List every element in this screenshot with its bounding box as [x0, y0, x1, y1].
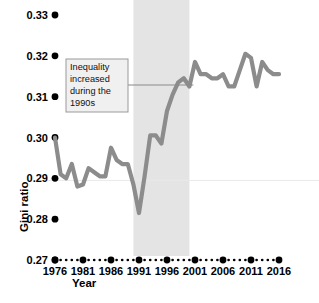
- x-tick-dot-minor: [104, 259, 107, 262]
- x-tick-dot-minor: [182, 259, 185, 262]
- x-tick-label: 2011: [239, 265, 263, 277]
- x-tick-dot-minor: [65, 259, 68, 262]
- x-tick-dot-minor: [126, 259, 129, 262]
- x-tick-dot-minor: [233, 259, 236, 262]
- x-tick-label: 1996: [155, 265, 179, 277]
- shaded-decade-band: [133, 0, 189, 256]
- x-tick-dot-minor: [272, 259, 275, 262]
- x-tick-dot-minor: [115, 259, 118, 262]
- x-tick-dot-major: [136, 257, 143, 264]
- x-tick-dot-minor: [149, 259, 152, 262]
- x-tick-dot-minor: [238, 259, 241, 262]
- y-tick-label: 0.30: [27, 132, 48, 144]
- x-tick-label: 1986: [99, 265, 123, 277]
- x-tick-label: 1981: [71, 265, 95, 277]
- y-tick-dot: [52, 93, 59, 100]
- x-tick-dot-major: [220, 257, 227, 264]
- x-tick-dot-minor: [143, 259, 146, 262]
- x-tick-dot-minor: [188, 259, 191, 262]
- x-tick-dot-major: [192, 257, 199, 264]
- x-tick-dot-minor: [227, 259, 230, 262]
- y-tick-label: 0.32: [27, 50, 48, 62]
- x-tick-dot-major: [80, 257, 87, 264]
- x-axis-title: Year: [72, 277, 97, 289]
- x-tick-label: 2016: [267, 265, 291, 277]
- x-tick-dot-minor: [216, 259, 219, 262]
- x-tick-dot-minor: [244, 259, 247, 262]
- x-tick-dot-minor: [121, 259, 124, 262]
- y-tick-dot: [52, 52, 59, 59]
- x-tick-dot-major: [52, 257, 59, 264]
- x-tick-dot-minor: [199, 259, 202, 262]
- x-tick-dot-minor: [171, 259, 174, 262]
- x-tick-label: 2001: [183, 265, 207, 277]
- x-tick-dot-major: [276, 257, 283, 264]
- y-tick-label: 0.31: [27, 91, 48, 103]
- x-tick-dot-minor: [160, 259, 163, 262]
- y-axis-title: Gini ratio: [18, 182, 30, 232]
- x-tick-dot-major: [248, 257, 255, 264]
- y-tick-dot: [52, 216, 59, 223]
- x-tick-dot-minor: [132, 259, 135, 262]
- x-tick-dot-minor: [266, 259, 269, 262]
- x-tick-dot-minor: [98, 259, 101, 262]
- x-tick-label: 1991: [127, 265, 151, 277]
- annotation-line-3: during the: [70, 86, 111, 96]
- y-tick-dot: [52, 12, 59, 19]
- x-tick-dot-minor: [210, 259, 213, 262]
- x-tick-dot-minor: [255, 259, 258, 262]
- annotation-callout: Inequality increased during the 1990s: [66, 59, 128, 112]
- x-tick-dot-minor: [154, 259, 157, 262]
- annotation-line-4: 1990s: [70, 98, 95, 108]
- x-axis-ticks: 197619811986199119962001200620112016: [43, 265, 291, 277]
- annotation-line-1: Inequality: [70, 62, 110, 72]
- x-tick-dot-major: [108, 257, 115, 264]
- x-tick-dot-minor: [205, 259, 208, 262]
- x-tick-dot-minor: [93, 259, 96, 262]
- x-tick-dot-minor: [70, 259, 73, 262]
- x-tick-dot-minor: [87, 259, 90, 262]
- x-tick-dot-major: [164, 257, 171, 264]
- x-tick-label: 1976: [43, 265, 67, 277]
- y-tick-dot: [52, 175, 59, 182]
- annotation-line-2: increased: [70, 74, 110, 84]
- y-tick-label: 0.33: [27, 9, 48, 21]
- chart-canvas: 0.270.280.290.300.310.320.33 19761981198…: [0, 0, 319, 303]
- x-tick-dot-minor: [76, 259, 79, 262]
- gini-ratio-line-chart: 0.270.280.290.300.310.320.33 19761981198…: [0, 0, 319, 303]
- x-tick-dot-minor: [59, 259, 62, 262]
- x-tick-dot-minor: [177, 259, 180, 262]
- x-tick-dot-minor: [261, 259, 264, 262]
- x-axis-dotted-line: [52, 257, 283, 264]
- x-tick-label: 2006: [211, 265, 235, 277]
